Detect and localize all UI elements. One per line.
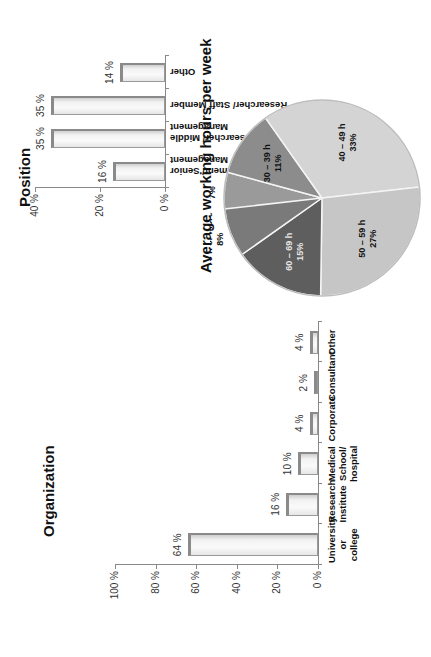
category-label: Other	[326, 324, 337, 361]
rotated-page: Organization 0 %20 %40 %60 %80 %100 %64 …	[0, 0, 431, 657]
category-label: Consultant	[326, 365, 337, 402]
x-tick-mark	[165, 88, 169, 89]
y-tick-label: 40 %	[231, 571, 242, 603]
x-tick-mark	[165, 154, 169, 155]
y-tick-label: 0 %	[159, 194, 170, 226]
y-axis-line	[115, 564, 318, 565]
x-tick-mark	[165, 187, 169, 188]
bar-other	[310, 331, 318, 354]
bar-value-label: 16 %	[270, 483, 281, 526]
y-tick-label: 20 %	[271, 571, 282, 603]
bar-researcher-staff-member	[51, 96, 165, 115]
y-tick-label: 40 %	[29, 194, 40, 226]
x-tick-mark	[165, 121, 169, 122]
organization-chart: 0 %20 %40 %60 %80 %100 %64 %University o…	[0, 327, 431, 657]
y-tick-mark	[115, 565, 116, 569]
bar-value-label: 10 %	[282, 442, 293, 485]
bar-medical-school-hospital	[298, 452, 318, 475]
y-tick-mark	[156, 565, 157, 569]
category-label: Research Institute	[326, 486, 348, 523]
bar-value-label: 16 %	[97, 152, 108, 191]
bar-value-label: 4 %	[294, 402, 305, 445]
y-tick-label: 0 %	[312, 571, 323, 603]
y-tick-mark	[165, 188, 166, 192]
bar-value-label: 64 %	[172, 523, 183, 566]
x-tick-mark	[318, 564, 322, 565]
x-axis-line	[165, 56, 166, 188]
y-tick-label: 60 %	[190, 571, 201, 603]
bar-other	[120, 63, 166, 82]
y-tick-mark	[318, 565, 319, 569]
bar-corporate	[310, 412, 318, 435]
x-tick-mark	[318, 362, 322, 363]
bar-research-institute	[286, 493, 318, 516]
pie-chart: 0 – 29 h7%30 – 39 h11%40 – 49 h33%50 – 5…	[210, 0, 431, 327]
x-tick-mark	[318, 443, 322, 444]
bar-value-label: 4 %	[294, 321, 305, 364]
y-tick-label: 80 %	[150, 571, 161, 603]
y-tick-mark	[237, 565, 238, 569]
y-tick-label: 100 %	[109, 571, 120, 603]
bar-senior-researcher-middle-management	[51, 129, 165, 148]
pie-slice-label: 70 h or more8%	[210, 212, 225, 266]
x-tick-mark	[165, 55, 169, 56]
category-label: Medical School/ hospital	[326, 446, 359, 483]
bar-university-or-college	[188, 533, 318, 556]
bar-value-label: 35 %	[35, 86, 46, 125]
bar-consultant	[314, 371, 318, 394]
category-label: University or college	[326, 527, 359, 564]
x-tick-mark	[318, 402, 322, 403]
bar-head-of-department-senior-management	[113, 162, 165, 181]
y-tick-mark	[277, 565, 278, 569]
y-tick-label: 20 %	[94, 194, 105, 226]
bar-value-label: 14 %	[104, 53, 115, 92]
pie-slice-label: 0 – 29 h7%	[210, 176, 217, 209]
position-chart: 0 %20 %40 %16 %Head of Department/ Senio…	[0, 0, 200, 327]
y-tick-mark	[196, 565, 197, 569]
y-tick-mark	[35, 188, 36, 192]
x-axis-line	[318, 322, 319, 565]
bar-value-label: 2 %	[298, 361, 309, 404]
x-tick-mark	[318, 524, 322, 525]
x-tick-mark	[318, 483, 322, 484]
category-label: Corporate	[326, 405, 337, 442]
